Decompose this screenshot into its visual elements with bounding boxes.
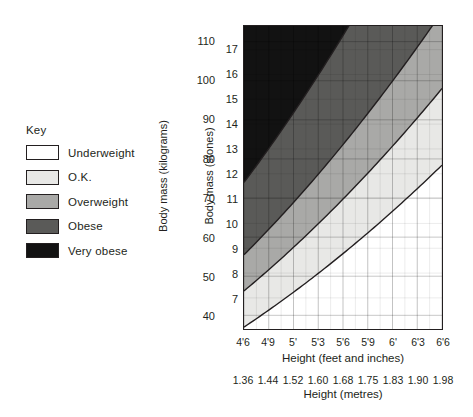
y-axis-kilograms-title: Body mass (kilograms) (157, 101, 169, 251)
legend-item: O.K. (26, 168, 166, 187)
x-tick-feet: 5'9 (361, 336, 375, 348)
legend-item-label: Obese (68, 220, 103, 232)
y-tick-stones: 13 (222, 143, 238, 155)
x-tick-metres: 1.68 (333, 374, 353, 386)
legend-item: Obese (26, 217, 166, 236)
y-tick-kilograms: 110 (181, 35, 215, 47)
x-tick-feet: 5'6 (336, 336, 350, 348)
x-tick-metres: 1.98 (433, 374, 453, 386)
legend-item: Very obese (26, 241, 166, 260)
x-tick-feet: 5' (289, 336, 297, 348)
x-tick-metres: 1.83 (383, 374, 403, 386)
y-tick-stones: 7 (222, 293, 238, 305)
x-tick-metres: 1.36 (233, 374, 253, 386)
legend-swatch (26, 145, 59, 160)
y-tick-kilograms: 100 (181, 74, 215, 86)
x-tick-feet: 5'3 (311, 336, 325, 348)
x-tick-feet: 6'6 (436, 336, 450, 348)
y-tick-stones: 10 (222, 218, 238, 230)
legend-item-label: Overweight (68, 196, 128, 208)
x-tick-metres: 1.75 (358, 374, 378, 386)
bmi-chart-figure: Key UnderweightO.K.OverweightObeseVery o… (0, 0, 473, 417)
legend: Key UnderweightO.K.OverweightObeseVery o… (26, 124, 166, 266)
legend-item-label: Underweight (68, 147, 135, 159)
y-tick-stones: 14 (222, 118, 238, 130)
legend-item: Overweight (26, 192, 166, 211)
x-axis-feet-title: Height (feet and inches) (282, 352, 404, 364)
x-tick-feet: 4'9 (261, 336, 275, 348)
legend-item-label: Very obese (68, 245, 128, 257)
bmi-band-plot (244, 26, 442, 329)
x-tick-metres: 1.60 (308, 374, 328, 386)
y-tick-stones: 17 (222, 43, 238, 55)
y-tick-kilograms: 40 (181, 310, 215, 322)
y-tick-stones: 12 (222, 168, 238, 180)
legend-swatch (26, 219, 59, 234)
y-tick-kilograms: 50 (181, 271, 215, 283)
y-tick-stones: 8 (222, 268, 238, 280)
x-tick-metres: 1.52 (283, 374, 303, 386)
x-tick-metres: 1.90 (408, 374, 428, 386)
x-tick-feet: 6' (389, 336, 397, 348)
legend-title: Key (26, 124, 166, 136)
legend-items: UnderweightO.K.OverweightObeseVery obese (26, 143, 166, 260)
y-tick-stones: 16 (222, 68, 238, 80)
plot-area (243, 25, 443, 330)
y-tick-stones: 11 (222, 193, 238, 205)
legend-swatch (26, 194, 59, 209)
y-tick-stones: 15 (222, 93, 238, 105)
x-tick-feet: 6'3 (411, 336, 425, 348)
legend-item: Underweight (26, 143, 166, 162)
legend-swatch (26, 243, 59, 258)
y-axis-stones-title: Body mass (stones) (203, 106, 215, 246)
legend-item-label: O.K. (68, 171, 92, 183)
y-tick-stones: 9 (222, 243, 238, 255)
x-tick-metres: 1.44 (258, 374, 278, 386)
x-axis-metres-title: Height (metres) (303, 388, 382, 400)
x-tick-feet: 4'6 (236, 336, 250, 348)
legend-swatch (26, 170, 59, 185)
